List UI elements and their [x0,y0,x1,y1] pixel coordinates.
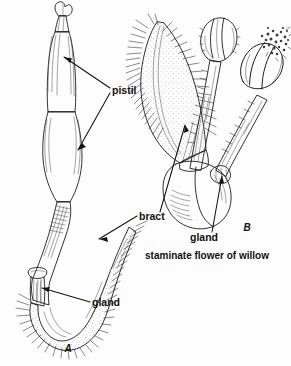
label-gland-a: gland [92,296,120,308]
label-pistil: pistil [112,84,137,96]
label-gland-b: gland [190,231,218,243]
label-bract: bract [139,210,165,222]
figure-caption: staminate flower of willow [145,250,269,261]
illustration-canvas: A [0,0,291,366]
panel-letter-b: B [243,222,250,233]
willow-flower-figure: A [0,0,291,366]
panel-letter-a: A [63,343,71,354]
